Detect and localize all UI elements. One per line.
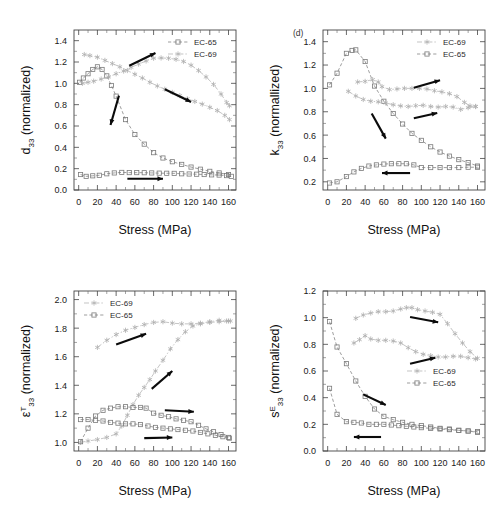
legend: EC-69EC-65 [84, 299, 133, 320]
x-tick-label: 160 [221, 197, 236, 207]
data-point-marker [335, 345, 339, 349]
y-tick-label: 0.6 [303, 366, 316, 376]
data-point-marker [86, 426, 90, 430]
trend-arrow [410, 357, 435, 364]
x-tick-label: 40 [360, 197, 370, 207]
y-tick-label: 0.4 [54, 143, 67, 153]
x-tick-label: 140 [451, 458, 466, 468]
legend-label-ec-65: EC-65 [443, 50, 466, 59]
series-ec-65-upper [327, 320, 479, 435]
y-tick-label: 1.6 [54, 352, 67, 362]
chart-panel-panel-k33: 0204060801001201401600.20.40.60.81.01.21… [249, 0, 499, 262]
x-tick-label: 60 [379, 197, 389, 207]
legend-label-ec-65: EC-65 [110, 311, 133, 320]
y-tick-label: 1.4 [54, 36, 67, 46]
x-tick-label: 20 [341, 197, 351, 207]
chart-panel-panel-s33: 0204060801001201401600.00.20.40.60.81.01… [249, 261, 499, 523]
x-tick-label: 40 [111, 458, 121, 468]
trend-arrow [382, 171, 410, 176]
trend-arrow [414, 112, 437, 118]
series-ec-65-upper [78, 65, 231, 177]
trend-arrow [165, 409, 194, 414]
series-line [330, 322, 478, 433]
x-tick-label: 120 [433, 458, 448, 468]
y-tick-label: 0.4 [303, 154, 316, 164]
series-line [81, 172, 232, 176]
y-axis-title: sE33 (normalized) [268, 324, 285, 417]
svg-text:k33 (normallized): k33 (normallized) [268, 65, 285, 156]
y-tick-label: 2.0 [54, 295, 67, 305]
x-tick-label: 120 [184, 197, 199, 207]
chart-panel-panel-eps33: 0204060801001201401601.01.21.41.61.82.0E… [0, 261, 250, 523]
legend-label-ec-65: EC-65 [194, 38, 217, 47]
x-tick-label: 40 [360, 458, 370, 468]
y-tick-label: 1.2 [54, 57, 67, 67]
y-tick-label: 0.6 [303, 131, 316, 141]
legend-label-ec-69: EC-69 [433, 367, 456, 376]
y-axis-title: d33 (normalized) [19, 66, 36, 155]
legend: EC-69EC-65 [417, 38, 466, 59]
y-tick-label: 0.0 [54, 185, 67, 195]
data-point-marker [438, 150, 442, 154]
x-tick-label: 20 [92, 197, 102, 207]
x-tick-label: 140 [202, 197, 217, 207]
figure-root: 0204060801001201401600.00.20.40.60.81.01… [0, 0, 499, 523]
y-tick-label: 1.0 [303, 313, 316, 323]
trend-arrow [127, 176, 163, 181]
x-axis-title: Stress (MPa) [119, 223, 192, 237]
data-point-marker [196, 423, 200, 427]
y-tick-label: 1.2 [303, 60, 316, 70]
y-tick-label: 1.0 [54, 438, 67, 448]
series-line [81, 407, 229, 442]
x-tick-label: 40 [111, 197, 121, 207]
x-tick-label: 160 [470, 458, 485, 468]
svg-text:d33 (normalized): d33 (normalized) [19, 66, 36, 155]
x-tick-label: 60 [130, 197, 140, 207]
svg-text:sE33 (normalized): sE33 (normalized) [268, 324, 285, 417]
series-ec-69-rising [80, 55, 232, 108]
trend-arrow [144, 435, 172, 440]
y-tick-label: 1.8 [54, 324, 67, 334]
series-ec-69-lower [346, 89, 478, 112]
y-tick-label: 1.0 [54, 79, 67, 89]
legend: EC-65EC-69 [168, 38, 217, 59]
x-tick-label: 0 [325, 458, 330, 468]
trend-arrow [116, 333, 146, 344]
x-tick-label: 80 [398, 197, 408, 207]
panel-label: (d) [293, 28, 304, 38]
y-tick-label: 0.4 [303, 393, 316, 403]
data-point-marker [123, 118, 127, 122]
y-tick-label: 0.8 [303, 107, 316, 117]
series-ec-65-lower [327, 386, 479, 434]
x-tick-label: 160 [470, 197, 485, 207]
x-tick-label: 20 [92, 458, 102, 468]
x-tick-label: 140 [202, 458, 217, 468]
x-tick-label: 160 [221, 458, 236, 468]
y-tick-label: 0.2 [303, 420, 316, 430]
series-line [354, 336, 476, 359]
y-tick-label: 1.4 [54, 381, 67, 391]
x-tick-label: 0 [325, 197, 330, 207]
data-point-marker [109, 83, 113, 87]
y-tick-label: 0.8 [303, 340, 316, 350]
legend-label-ec-65: EC-65 [433, 379, 456, 388]
y-axis-title: k33 (normallized) [268, 65, 285, 156]
x-tick-label: 100 [165, 458, 180, 468]
y-tick-label: 1.4 [303, 37, 316, 47]
y-tick-label: 0.6 [54, 121, 67, 131]
y-tick-label: 0.2 [54, 164, 67, 174]
series-ec-69-lower [352, 333, 478, 362]
legend: EC-69EC-65 [407, 367, 456, 388]
trend-arrow [410, 317, 438, 324]
data-point-marker [170, 160, 174, 164]
x-tick-label: 120 [184, 458, 199, 468]
series-line [80, 67, 229, 175]
series-line [84, 55, 229, 120]
series-ec-69-upper [355, 77, 477, 109]
series-line [330, 388, 478, 431]
x-tick-label: 20 [341, 458, 351, 468]
y-tick-label: 1.0 [303, 84, 316, 94]
legend-label-ec-69: EC-69 [443, 38, 466, 47]
x-tick-label: 140 [451, 197, 466, 207]
series-line [81, 321, 229, 442]
